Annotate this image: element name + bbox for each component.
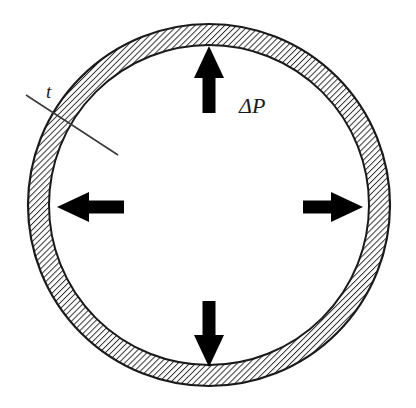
pressure-vessel-figure: t ΔP: [0, 0, 416, 408]
thickness-label: t: [46, 81, 52, 102]
pressure-label: ΔP: [238, 93, 265, 118]
pressure-vessel-diagram: t ΔP: [0, 0, 416, 408]
